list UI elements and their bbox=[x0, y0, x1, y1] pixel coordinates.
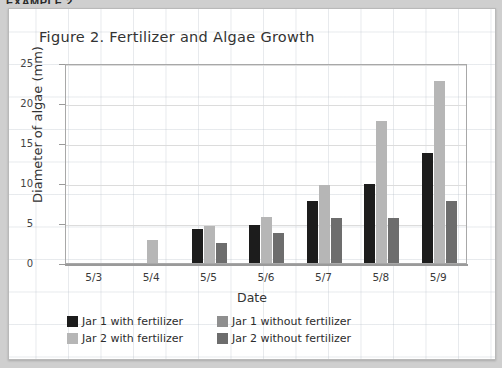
plot-area bbox=[65, 64, 467, 264]
legend-item: Jar 2 without fertilizer bbox=[217, 332, 382, 345]
y-tick-label: 10 bbox=[8, 178, 33, 189]
y-tick-label: 5 bbox=[8, 218, 33, 229]
legend-item: Jar 1 without fertilizer bbox=[217, 315, 382, 328]
legend-swatch bbox=[217, 333, 228, 344]
bar bbox=[249, 225, 260, 263]
x-tick-label: 5/3 bbox=[65, 271, 123, 283]
bar bbox=[216, 243, 227, 263]
y-axis-label: Diameter of algae (mm) bbox=[30, 15, 45, 235]
x-tick-label: 5/4 bbox=[122, 271, 180, 283]
bar-group bbox=[411, 63, 468, 263]
legend-item: Jar 1 with fertilizer bbox=[67, 315, 217, 328]
screenshot-page: EXAMPLE 2 Figure 2. Fertilizer and Algae… bbox=[0, 0, 502, 368]
chart-title: Figure 2. Fertilizer and Algae Growth bbox=[39, 29, 315, 45]
bar-group bbox=[123, 63, 180, 263]
bar bbox=[307, 201, 318, 263]
legend-label: Jar 2 without fertilizer bbox=[232, 332, 351, 345]
bar-group bbox=[296, 63, 353, 263]
x-tick-label: 5/8 bbox=[352, 271, 410, 283]
y-tick-label: 0 bbox=[8, 258, 33, 269]
legend-label: Jar 2 with fertilizer bbox=[82, 332, 183, 345]
bar-group bbox=[353, 63, 410, 263]
bar bbox=[147, 240, 158, 263]
bar bbox=[261, 217, 272, 263]
bar bbox=[204, 226, 215, 263]
x-tick-label: 5/5 bbox=[180, 271, 238, 283]
top-caption: EXAMPLE 2 bbox=[6, 0, 73, 4]
bar bbox=[376, 121, 387, 263]
y-tick-label: 15 bbox=[8, 138, 33, 149]
bar bbox=[364, 184, 375, 263]
x-axis-label: Date bbox=[9, 290, 495, 305]
bar-group bbox=[181, 63, 238, 263]
legend-item: Jar 2 with fertilizer bbox=[67, 332, 217, 345]
x-tick-label: 5/6 bbox=[237, 271, 295, 283]
bar bbox=[331, 218, 342, 263]
x-axis-line bbox=[65, 264, 468, 266]
bar bbox=[422, 153, 433, 263]
y-tick-label: 20 bbox=[8, 98, 33, 109]
x-tick-label: 5/7 bbox=[294, 271, 352, 283]
legend-swatch bbox=[67, 316, 78, 327]
chart-legend: Jar 1 with fertilizerJar 1 without ferti… bbox=[67, 315, 367, 345]
bar bbox=[319, 185, 330, 263]
legend-label: Jar 1 with fertilizer bbox=[82, 315, 183, 328]
bar-group bbox=[66, 63, 123, 263]
legend-label: Jar 1 without fertilizer bbox=[232, 315, 351, 328]
bar bbox=[434, 81, 445, 263]
bar bbox=[446, 201, 457, 263]
y-tick-label: 25 bbox=[8, 58, 33, 69]
legend-swatch bbox=[67, 333, 78, 344]
bar bbox=[192, 229, 203, 263]
bar bbox=[273, 233, 284, 263]
bar-group bbox=[238, 63, 295, 263]
chart-card: Figure 2. Fertilizer and Algae Growth Di… bbox=[8, 8, 496, 360]
legend-swatch bbox=[217, 316, 228, 327]
bar bbox=[388, 218, 399, 263]
x-tick-label: 5/9 bbox=[409, 271, 467, 283]
